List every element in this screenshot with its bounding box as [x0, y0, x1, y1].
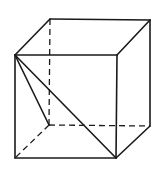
cube-diagram	[0, 0, 165, 170]
edge-front-top-left-to-back-top-left	[15, 19, 50, 55]
cube-wireframe	[0, 0, 165, 170]
hidden-edges	[15, 19, 150, 158]
edge-back-top-left-to-back-top-right	[50, 19, 150, 20]
edge-back-top-left-to-back-bottom-left	[49, 19, 50, 125]
edge-back-bottom-left-to-back-bottom-right	[49, 125, 150, 126]
edge-front-top-left-to-back-bottom-left	[15, 55, 49, 125]
edge-back-bottom-right-to-front-bottom-right	[116, 126, 150, 158]
visible-edges	[15, 19, 150, 158]
edge-front-top-right-to-front-bottom-right	[116, 55, 117, 158]
edge-back-top-right-to-front-top-right	[117, 20, 150, 55]
edge-back-bottom-left-to-front-bottom-left	[15, 125, 49, 158]
